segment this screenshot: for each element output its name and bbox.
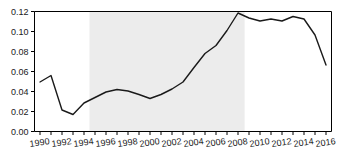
x-tick-label: 1996 [95,136,116,149]
x-tick-label: 2010 [249,136,270,149]
y-tick-label: 0.02 [11,107,29,117]
y-tick-label: 0.12 [11,7,29,17]
x-tick-label: 2006 [205,136,226,149]
x-axis-tick-labels: 1990199219941996199820002002200420062008… [29,136,336,149]
x-tick-label: 2012 [271,136,292,149]
y-tick-label: 0.00 [11,127,29,137]
x-tick-label: 2004 [183,136,204,149]
shaded-region-group [90,12,245,132]
y-axis-tick-labels: 0.000.020.040.060.080.100.12 [11,7,29,137]
x-tick-label: 2014 [293,136,314,149]
x-tick-label: 2016 [315,136,336,149]
y-tick-label: 0.06 [11,67,29,77]
y-tick-label: 0.04 [11,87,29,97]
x-tick-label: 2000 [139,136,160,149]
x-tick-label: 1994 [73,136,94,149]
y-axis-tick-marks [31,12,35,132]
chart-canvas: 0.000.020.040.060.080.100.12 19901992199… [0,0,342,159]
x-tick-label: 2008 [227,136,248,149]
x-axis-tick-marks [40,132,326,136]
line-chart: 0.000.020.040.060.080.100.12 19901992199… [0,0,342,159]
x-tick-label: 2002 [161,136,182,149]
x-tick-label: 1990 [29,136,50,149]
shaded-period-band [90,12,245,132]
y-tick-label: 0.08 [11,47,29,57]
x-tick-label: 1998 [117,136,138,149]
y-tick-label: 0.10 [11,27,29,37]
x-tick-label: 1992 [51,136,72,149]
